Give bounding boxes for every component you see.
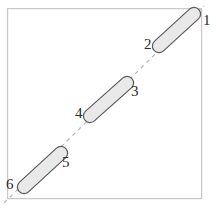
geometry-figure: 1 2 3 4 5 6 <box>0 0 216 209</box>
point-label-1: 1 <box>203 12 211 28</box>
point-label-4: 4 <box>75 105 83 121</box>
point-label-2: 2 <box>144 36 152 52</box>
point-label-6: 6 <box>6 176 14 192</box>
point-label-5: 5 <box>62 154 70 170</box>
diagram-canvas: 1 2 3 4 5 6 <box>0 0 216 209</box>
point-label-3: 3 <box>131 83 139 99</box>
